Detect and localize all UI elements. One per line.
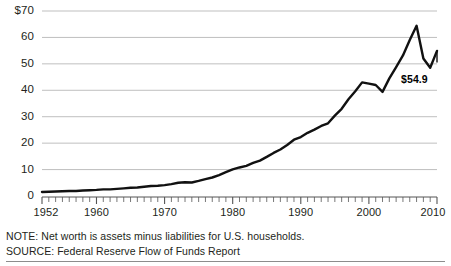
chart-canvas — [0, 0, 451, 266]
x-axis-tick-label: 1980 — [210, 206, 256, 218]
y-axis-tick-label: 30 — [0, 110, 34, 122]
bottom-divider — [6, 261, 445, 262]
y-axis-tick-label: 50 — [0, 57, 34, 69]
net-worth-chart: 0102030405060$70 19521960197019801990200… — [0, 0, 451, 266]
y-axis-tick-label: 0 — [0, 189, 34, 201]
x-axis-tick-label: 1960 — [73, 206, 119, 218]
net-worth-line — [42, 26, 437, 192]
end-value-label: $54.9 — [401, 73, 428, 85]
gridlines — [42, 11, 437, 170]
y-axis-tick-label: $70 — [0, 4, 34, 16]
y-axis-tick-label: 10 — [0, 163, 34, 175]
x-axis-tick-label: 2000 — [346, 206, 392, 218]
chart-source: SOURCE: Federal Reserve Flow of Funds Re… — [6, 245, 240, 257]
x-axis-tick-label: 1952 — [23, 206, 69, 218]
x-axis-tick-label: 2010 — [410, 206, 451, 218]
x-axis-tick-label: 1970 — [142, 206, 188, 218]
y-axis-tick-label: 20 — [0, 136, 34, 148]
x-axis-ticks — [42, 197, 437, 204]
chart-note: NOTE: Net worth is assets minus liabilit… — [6, 230, 304, 242]
y-axis-tick-label: 60 — [0, 30, 34, 42]
y-axis-tick-label: 40 — [0, 83, 34, 95]
x-axis-tick-label: 1990 — [278, 206, 324, 218]
